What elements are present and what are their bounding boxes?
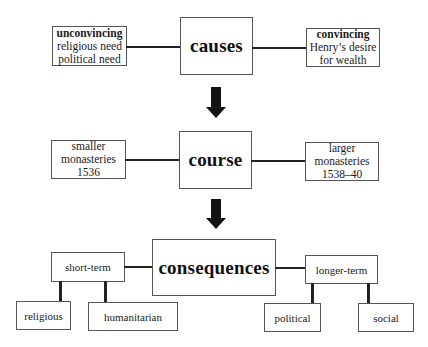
connector-line bbox=[252, 47, 306, 49]
short-term-label: short-term bbox=[65, 261, 111, 273]
unconvincing-item: religious need bbox=[57, 40, 122, 53]
social-label: social bbox=[373, 312, 399, 324]
unconvincing-heading: unconvincing bbox=[57, 27, 123, 40]
connector-line bbox=[125, 159, 179, 161]
larger-monasteries-box: larger monasteries 1538–40 bbox=[305, 142, 379, 181]
larger-line: 1538–40 bbox=[322, 168, 362, 181]
smaller-line: smaller bbox=[72, 140, 106, 153]
smaller-monasteries-box: smaller monasteries 1536 bbox=[51, 140, 126, 179]
longer-term-box: longer-term bbox=[305, 255, 378, 284]
unconvincing-item: political need bbox=[58, 53, 120, 66]
connector-line bbox=[251, 160, 305, 162]
religious-label: religious bbox=[24, 310, 63, 322]
unconvincing-box: unconvincing religious need political ne… bbox=[52, 26, 127, 66]
political-label: political bbox=[274, 312, 310, 324]
connector-line bbox=[367, 283, 370, 303]
religious-box: religious bbox=[16, 301, 71, 330]
connector-line bbox=[59, 281, 62, 301]
humanitarian-box: humanitarian bbox=[88, 302, 178, 331]
course-box: course bbox=[179, 131, 252, 189]
connector-line bbox=[275, 267, 305, 269]
social-box: social bbox=[358, 303, 414, 332]
political-box: political bbox=[264, 303, 321, 332]
convincing-item: for wealth bbox=[320, 54, 367, 67]
convincing-box: convincing Henry’s desire for wealth bbox=[306, 28, 380, 67]
smaller-line: 1536 bbox=[77, 166, 100, 179]
connector-line bbox=[124, 266, 152, 268]
convincing-heading: convincing bbox=[316, 28, 369, 41]
convincing-item: Henry’s desire bbox=[310, 41, 377, 54]
consequences-box: consequences bbox=[152, 239, 276, 296]
longer-term-label: longer-term bbox=[316, 264, 368, 276]
connector-line bbox=[311, 283, 314, 303]
larger-line: monasteries bbox=[315, 155, 370, 168]
consequences-label: consequences bbox=[158, 257, 269, 279]
connector-line bbox=[126, 46, 180, 48]
down-arrow-icon bbox=[209, 199, 223, 229]
connector-line bbox=[104, 281, 107, 302]
causes-label: causes bbox=[190, 35, 243, 57]
course-label: course bbox=[189, 149, 243, 171]
humanitarian-label: humanitarian bbox=[104, 311, 162, 323]
smaller-line: monasteries bbox=[61, 153, 116, 166]
short-term-box: short-term bbox=[51, 252, 125, 282]
down-arrow-icon bbox=[209, 87, 223, 118]
causes-box: causes bbox=[180, 17, 253, 75]
larger-line: larger bbox=[329, 142, 356, 155]
